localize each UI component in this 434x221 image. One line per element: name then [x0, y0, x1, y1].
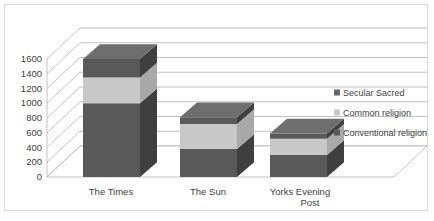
bar-the-sun-secular-front	[180, 117, 237, 124]
legend-label-conventional-religion: Conventional religion	[343, 128, 427, 138]
bar-yorks-secular-front	[270, 134, 327, 139]
y-axis-labels: 1600 1400 1200 1000 800 600 400 200 0	[21, 53, 42, 182]
chart-plot-area: 1600 1400 1200 1000 800 600 400 200 0 Th…	[5, 5, 427, 210]
bar-yorks-common-front	[270, 139, 327, 155]
bar-the-times-secular-front	[83, 59, 140, 77]
legend-swatch-conventional-religion	[334, 130, 340, 136]
x-tick-label-the-times: The Times	[89, 186, 134, 197]
bar-the-sun-common-front	[180, 124, 237, 149]
y-tick-label: 1000	[21, 97, 42, 108]
legend-swatch-secular-sacred	[334, 90, 340, 96]
legend-swatch-common-religion	[334, 110, 340, 116]
y-tick-label: 1600	[21, 53, 42, 64]
y-tick-label: 400	[26, 142, 42, 153]
x-tick-label-yorks-line2: Post	[300, 197, 319, 208]
chart-container: 1600 1400 1200 1000 800 600 400 200 0 Th…	[4, 4, 428, 211]
y-tick-label: 200	[26, 156, 42, 167]
bar-group-the-sun	[180, 103, 254, 177]
bar-group-the-times	[83, 44, 157, 177]
bar-the-times-common-front	[83, 77, 140, 103]
y-tick-label: 600	[26, 127, 42, 138]
y-tick-label: 1400	[21, 68, 42, 79]
x-tick-label-the-sun: The Sun	[190, 186, 226, 197]
y-tick-label: 1200	[21, 83, 42, 94]
bar-yorks-conventional-front	[270, 155, 327, 177]
bar-the-times-conventional-front	[83, 103, 140, 177]
legend-label-secular-sacred: Secular Sacred	[343, 88, 405, 98]
x-tick-label-yorks-line1: Yorks Evening	[270, 186, 330, 197]
x-axis-labels: The Times The Sun Yorks Evening Post	[89, 186, 330, 208]
y-tick-label: 800	[26, 112, 42, 123]
bar-the-times-conventional-side	[140, 89, 157, 178]
bar-group-yorks-evening-post	[270, 119, 344, 177]
chart-svg: 1600 1400 1200 1000 800 600 400 200 0 Th…	[5, 5, 427, 210]
y-tick-label: 0	[37, 171, 42, 182]
legend-label-common-religion: Common religion	[343, 108, 411, 118]
bar-the-sun-conventional-front	[180, 149, 237, 177]
